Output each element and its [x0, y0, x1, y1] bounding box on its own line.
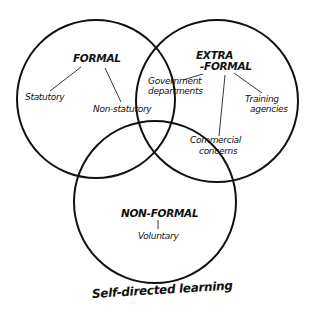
government-label: Government	[148, 77, 201, 86]
statutory-label: Statutory	[25, 93, 64, 102]
agencies-label: agencies	[250, 105, 288, 114]
venn-diagram	[0, 0, 311, 316]
training-label: Training	[245, 95, 279, 104]
extra-formal-to-training-line	[234, 73, 262, 93]
extra-formal-heading-line2: -FORMAL	[200, 61, 252, 72]
commercial-label: Commercial	[190, 136, 241, 145]
extra-formal-heading-line1: EXTRA	[196, 50, 233, 61]
departments-label: departments	[148, 87, 203, 96]
formal-heading: FORMAL	[73, 53, 121, 64]
extra-formal-to-commercial-line	[219, 75, 225, 136]
voluntary-label: Voluntary	[138, 232, 178, 241]
formal-to-non-statutory-line	[105, 68, 121, 102]
non-statutory-label: Non-statutory	[93, 105, 151, 114]
formal-to-statutory-line	[50, 67, 81, 91]
concerns-label: concerns	[199, 147, 237, 156]
non-formal-heading: NON-FORMAL	[121, 208, 198, 219]
